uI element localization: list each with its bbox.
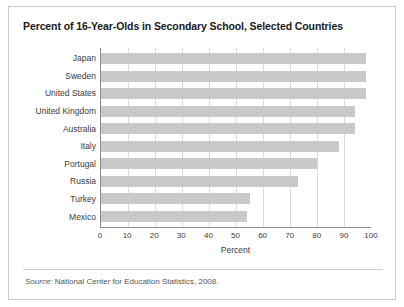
bar-series: [101, 48, 371, 227]
y-axis-label-turkey: Turkey: [25, 194, 96, 205]
table-row: [101, 158, 371, 169]
x-axis-tick-50: 50: [231, 231, 240, 240]
table-row: [101, 193, 371, 204]
table-row: [101, 88, 371, 99]
table-row: [101, 176, 371, 187]
y-axis-label-russia: Russia: [25, 176, 96, 187]
y-axis-label-mexico: Mexico: [25, 212, 96, 223]
bar-australia: [101, 123, 355, 134]
source-label: Source:: [25, 277, 53, 286]
x-axis-tick-70: 70: [285, 231, 294, 240]
bar-mexico: [101, 211, 247, 222]
y-axis-label-united-states: United States: [25, 88, 96, 99]
table-row: [101, 211, 371, 222]
x-axis-tick-10: 10: [123, 231, 132, 240]
source-text: National Center for Education Statistics…: [53, 277, 219, 286]
y-axis-label-sweden: Sweden: [25, 71, 96, 82]
x-axis-tick-100: 100: [364, 231, 377, 240]
bar-united-states: [101, 88, 366, 99]
x-axis-tick-20: 20: [150, 231, 159, 240]
y-axis-label-japan: Japan: [25, 53, 96, 64]
x-axis-tick-60: 60: [258, 231, 267, 240]
table-row: [101, 141, 371, 152]
y-axis-label-portugal: Portugal: [25, 159, 96, 170]
bar-japan: [101, 53, 366, 64]
bar-italy: [101, 141, 339, 152]
bar-united-kingdom: [101, 106, 355, 117]
table-row: [101, 53, 371, 64]
x-axis-tick-40: 40: [204, 231, 213, 240]
y-axis-category-labels: Japan Sweden United States United Kingdo…: [25, 48, 96, 228]
plot-area: [100, 48, 371, 228]
source-divider: [23, 269, 383, 270]
chart-title: Percent of 16-Year-Olds in Secondary Sch…: [23, 20, 343, 32]
bar-russia: [101, 176, 298, 187]
chart-figure: Percent of 16-Year-Olds in Secondary Sch…: [8, 6, 396, 300]
y-axis-label-australia: Australia: [25, 124, 96, 135]
y-axis-label-united-kingdom: United Kingdom: [25, 106, 96, 117]
x-axis-tick-0: 0: [98, 231, 102, 240]
x-axis-tick-labels: 0102030405060708090100: [100, 231, 371, 243]
x-axis-tick-90: 90: [339, 231, 348, 240]
bar-turkey: [101, 193, 250, 204]
bar-portugal: [101, 158, 317, 169]
x-axis-title: Percent: [100, 245, 371, 255]
table-row: [101, 123, 371, 134]
table-row: [101, 71, 371, 82]
table-row: [101, 106, 371, 117]
source-note: Source: National Center for Education St…: [25, 277, 218, 286]
x-axis-tick-30: 30: [177, 231, 186, 240]
bar-sweden: [101, 71, 366, 82]
x-axis-tick-80: 80: [312, 231, 321, 240]
y-axis-label-italy: Italy: [25, 141, 96, 152]
